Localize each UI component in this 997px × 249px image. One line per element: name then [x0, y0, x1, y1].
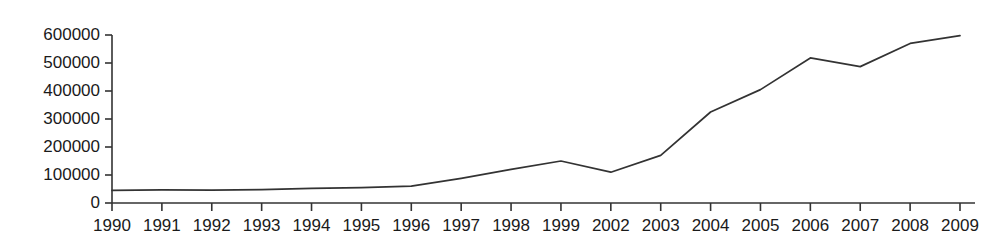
chart-plot-area: [0, 0, 997, 249]
y-axis-tick-label: 600000: [43, 26, 100, 43]
y-axis-tick-label: 500000: [43, 54, 100, 71]
y-axis-tick-label: 200000: [43, 138, 100, 155]
data-series-line: [112, 36, 960, 191]
y-axis-tick-label: 0: [91, 194, 100, 211]
x-axis-ticks: [112, 203, 960, 211]
y-axis-tick-label: 300000: [43, 110, 100, 127]
y-axis-tick-label: 400000: [43, 82, 100, 99]
line-chart: 0100000200000300000400000500000600000 19…: [0, 0, 997, 249]
x-axis-tick-label: 2009: [930, 217, 990, 234]
y-axis-group: [105, 35, 112, 203]
y-axis-ticks: [105, 35, 112, 203]
x-axis-group: [112, 203, 975, 211]
y-axis-tick-label: 100000: [43, 166, 100, 183]
